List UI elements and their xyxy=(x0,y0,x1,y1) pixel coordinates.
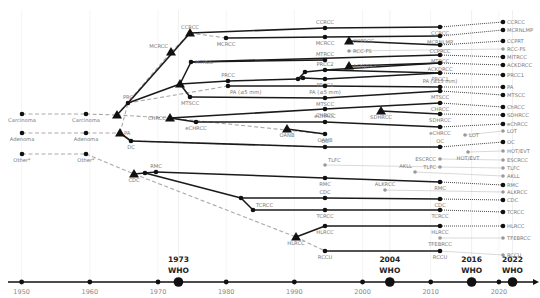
dot-marker-icon xyxy=(438,43,443,48)
solid-lineage-edge xyxy=(180,62,191,84)
dot-marker-icon xyxy=(323,208,328,213)
dot-marker-icon xyxy=(323,84,328,89)
provisional-edge xyxy=(349,49,503,51)
node-akll: AKLL xyxy=(399,163,417,174)
node-label: ALKRCC xyxy=(375,181,396,187)
who-edition-marker xyxy=(508,277,518,287)
dot-marker-icon xyxy=(438,197,443,202)
node-c22_rccfs: RCC-FS xyxy=(501,46,525,52)
dot-marker-icon xyxy=(84,112,89,117)
node-aden50: Adenoma xyxy=(10,131,35,142)
dot-marker-icon xyxy=(189,60,194,65)
dot-marker-icon xyxy=(501,224,506,229)
node-label: ACKDRCC xyxy=(353,63,378,69)
dot-marker-icon xyxy=(501,85,506,90)
node-label: eChRCC xyxy=(507,121,528,127)
dot-marker-icon xyxy=(323,35,328,40)
node-label: CDC xyxy=(434,202,446,208)
node-label: SDHRCC xyxy=(429,117,451,123)
node-label: MCRCC xyxy=(149,43,168,49)
node-label: PA (≤5 mm) xyxy=(230,89,261,95)
grey-dot-marker-icon xyxy=(347,49,351,53)
node-label: DC xyxy=(127,144,135,150)
node-c22_mcrnlmp: MCRNLMP xyxy=(501,27,533,33)
dot-marker-icon xyxy=(501,183,506,188)
year-label: 1950 xyxy=(13,288,30,296)
node-label: Adenoma xyxy=(74,136,99,142)
who-edition-marker xyxy=(385,277,395,287)
node-cdcA xyxy=(143,171,148,176)
node-label: MTSCC xyxy=(507,92,526,98)
node-c22_tlfc: TLFC xyxy=(501,165,520,171)
node-label: OC xyxy=(436,138,444,144)
node-label: MCRCC xyxy=(316,40,335,46)
node-label: MITRCC xyxy=(507,54,527,60)
who-edition-label: WHO xyxy=(502,266,523,275)
node-label: PRCC1 xyxy=(507,72,524,78)
dot-marker-icon xyxy=(323,96,328,101)
node-pKnee1 xyxy=(296,77,301,82)
node-label: ChRCC xyxy=(507,104,525,110)
year-tick xyxy=(428,280,433,285)
grey-dot-marker-icon xyxy=(501,236,505,240)
node-label: RMC xyxy=(150,163,162,169)
node-label: CDC xyxy=(507,197,519,203)
node-label: RCC-FS xyxy=(507,46,526,52)
dot-marker-icon xyxy=(323,107,328,112)
node-c16_mtscc: MTSCC xyxy=(431,89,450,100)
node-label: CCPRCC xyxy=(353,38,374,44)
dot-marker-icon xyxy=(501,20,506,25)
dot-marker-icon xyxy=(84,152,89,157)
node-c22_echrcc: eChRCC xyxy=(501,121,528,127)
dot-marker-icon xyxy=(20,152,25,157)
dot-marker-icon xyxy=(438,34,443,39)
node-label: MTRCC xyxy=(195,59,214,65)
node-c22_cdc: CDC xyxy=(501,197,519,203)
node-c22_tfeb: TFEBRCC xyxy=(501,235,531,241)
dot-marker-icon xyxy=(323,176,328,181)
dot-marker-icon xyxy=(301,76,306,81)
node-label: OC xyxy=(507,139,515,145)
who-edition-year: 1973 xyxy=(168,255,189,264)
dot-marker-icon xyxy=(438,112,443,117)
node-aden73: Adenoma xyxy=(74,131,99,142)
node-label: RMC xyxy=(434,185,446,191)
node-c22_ackd: ACKDRCC xyxy=(501,62,533,68)
grey-dot-marker-icon xyxy=(323,163,327,167)
node-label: MTSCC xyxy=(181,100,200,106)
node-other73: Other* xyxy=(77,152,95,163)
node-c22_ccrcc: CCRCC xyxy=(501,19,526,25)
node-c22_akll: AKLL xyxy=(501,173,520,179)
grey-dot-marker-icon xyxy=(438,236,442,240)
node-oanbTri: OANB xyxy=(280,124,295,138)
node-c22_sdh: SDHRCC xyxy=(501,112,529,118)
node-c16_escrcc: ESCRCC xyxy=(415,156,442,162)
node-label: RMC xyxy=(319,181,331,187)
dot-marker-icon xyxy=(323,196,328,201)
year-tick xyxy=(224,280,229,285)
who-edition-year: 2004 xyxy=(379,255,400,264)
provisional-edge xyxy=(440,167,503,168)
solid-lineage-edge xyxy=(325,36,440,37)
grey-dot-marker-icon xyxy=(383,188,387,192)
node-label: TCRCC xyxy=(506,209,524,215)
who-renal-tumor-classification-timeline: CarcinomaAdenomaOther*CarcinomaAdenomaOt… xyxy=(0,0,540,298)
dot-marker-icon xyxy=(126,101,131,106)
node-c22_hlrcc: HLRCC xyxy=(501,223,525,229)
dot-marker-icon xyxy=(323,249,328,254)
year-label: 2010 xyxy=(422,288,439,296)
dot-marker-icon xyxy=(438,89,443,94)
grey-dot-marker-icon xyxy=(466,150,470,154)
dot-marker-icon xyxy=(296,77,301,82)
dot-marker-icon xyxy=(501,210,506,215)
node-pKnee2 xyxy=(303,70,308,75)
node-label: TFEBRCC xyxy=(427,241,452,247)
node-c16_tlfc: TLFC xyxy=(422,164,441,170)
grey-dot-marker-icon xyxy=(501,129,505,133)
solid-lineage-edge xyxy=(325,86,440,87)
node-label: TLFC xyxy=(327,157,341,163)
solid-lineage-edge xyxy=(170,109,325,118)
year-label: 1970 xyxy=(150,288,167,296)
node-other50: Other* xyxy=(13,152,31,163)
node-prc: PRC xyxy=(123,94,133,105)
